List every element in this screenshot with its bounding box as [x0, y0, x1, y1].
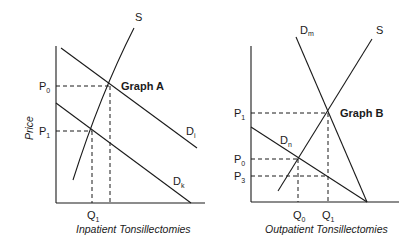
graph-a-y-axis-title: Price [23, 116, 35, 140]
graph-b-q1-label: Q1 [322, 209, 335, 223]
graph-b-dn-label: Dn [280, 134, 292, 148]
graph-a-demand-dk-curve [56, 103, 191, 203]
graph-a: Graph A S Di Dk P0 P1 Q1 Inpatient Tonsi… [23, 11, 205, 235]
graph-b-p1-label: P1 [234, 107, 245, 121]
graph-a-supply-curve [73, 28, 134, 180]
graph-b: Graph B Dm S Dn P1 P0 P3 Q0 Q1 Outpatien… [234, 24, 399, 235]
graph-b-x-axis-title: Outpatient Tonsillectomies [265, 223, 389, 235]
graph-b-demand-dm-curve [296, 37, 367, 202]
graph-a-title: Graph A [121, 80, 164, 92]
graph-a-q1-label: Q1 [87, 209, 100, 223]
graph-b-dm-label: Dm [300, 24, 314, 37]
graph-a-di-label: Di [186, 125, 196, 139]
graph-a-p0-label: P0 [39, 80, 50, 94]
graph-b-p0-label: P0 [234, 153, 245, 167]
supply-demand-diagram: Graph A S Di Dk P0 P1 Q1 Inpatient Tonsi… [0, 0, 416, 244]
graph-a-p1-label: P1 [39, 125, 50, 139]
graph-b-supply-label: S [376, 24, 383, 36]
graph-b-p3-label: P3 [234, 170, 245, 184]
graph-a-dk-label: Dk [173, 175, 185, 189]
graph-a-demand-di-curve [61, 48, 197, 148]
graph-b-q0-label: Q0 [293, 209, 306, 223]
graph-a-supply-label: S [135, 11, 142, 23]
graph-b-demand-dn-curve [251, 127, 367, 202]
graph-a-x-axis-title: Inpatient Tonsillectomies [76, 223, 191, 235]
graph-b-title: Graph B [340, 107, 383, 119]
